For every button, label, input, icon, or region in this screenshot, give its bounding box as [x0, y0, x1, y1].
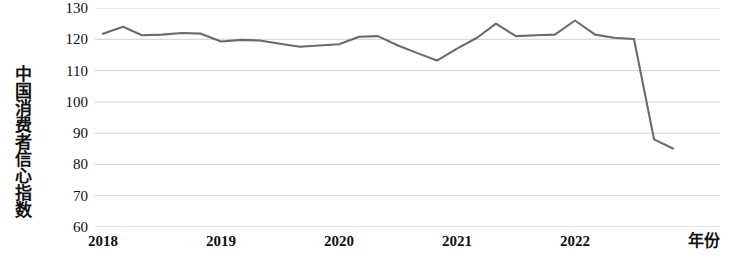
y-tick-label: 90 [44, 126, 88, 141]
y-axis-tick-labels: 13012011010090807060 [36, 0, 88, 264]
y-axis-title: 中国消费者信心指数 [4, 46, 32, 236]
y-tick-label: 70 [44, 188, 88, 203]
x-tick-label: 2020 [324, 232, 354, 250]
consumer-confidence-line-chart: 中国消费者信心指数 13012011010090807060 201820192… [0, 0, 734, 264]
x-axis-title: 年份 [688, 232, 720, 250]
x-tick-label: 2021 [442, 232, 472, 250]
x-tick-label: 2018 [88, 232, 118, 250]
y-tick-label: 110 [44, 63, 88, 78]
x-axis-tick-labels: 20182019202020212022 [0, 232, 734, 262]
x-tick-label: 2019 [206, 232, 236, 250]
y-tick-label: 130 [44, 1, 88, 16]
y-tick-label: 120 [44, 32, 88, 47]
plot-area [95, 8, 720, 227]
y-tick-label: 100 [44, 94, 88, 109]
gridlines [95, 8, 720, 227]
chart-svg [95, 8, 720, 227]
y-tick-label: 80 [44, 157, 88, 172]
x-tick-label: 2022 [560, 232, 590, 250]
